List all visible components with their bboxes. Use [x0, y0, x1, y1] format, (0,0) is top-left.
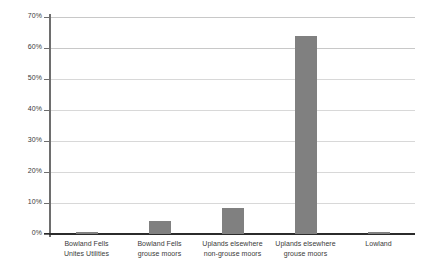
x-label-1-line2: grouse moors: [123, 249, 196, 259]
y-tick-label-20: 20%: [2, 167, 42, 174]
x-label-3-line2: grouse moors: [269, 249, 342, 259]
bar-bowland-fells-grouse-moors[interactable]: [149, 221, 171, 234]
bar-chart: 70% 60% 50% 40% 30% 20% 10% 0%: [0, 0, 430, 277]
y-tick-mark-20: [44, 172, 49, 173]
bar-slot-0: [50, 17, 123, 234]
y-tick-label-40: 40%: [2, 105, 42, 112]
x-label-0-line1: Bowland Fells: [64, 240, 108, 247]
y-tick-mark-60: [44, 48, 49, 49]
bar-slot-2: [196, 17, 269, 234]
y-tick-mark-0: [44, 234, 49, 235]
y-tick-mark-50: [44, 79, 49, 80]
y-tick-mark-10: [44, 203, 49, 204]
x-label-2-line1: Uplands elsewhere: [202, 240, 262, 247]
bar-bowland-fells-unites-utilities[interactable]: [76, 232, 98, 234]
x-label-2-line2: non-grouse moors: [196, 249, 269, 259]
bar-lowland[interactable]: [368, 232, 390, 234]
y-tick-label-70: 70%: [2, 12, 42, 19]
y-tick-mark-70: [44, 17, 49, 18]
bar-slot-4: [342, 17, 415, 234]
x-label-1: Bowland Fells grouse moors: [123, 239, 196, 259]
x-label-0: Bowland Fells Unites Utilities: [50, 239, 123, 259]
y-tick-mark-30: [44, 141, 49, 142]
x-axis-labels: Bowland Fells Unites Utilities Bowland F…: [50, 239, 415, 277]
x-label-1-line1: Bowland Fells: [137, 240, 181, 247]
y-tick-mark-40: [44, 110, 49, 111]
x-label-3: Uplands elsewhere grouse moors: [269, 239, 342, 259]
y-tick-label-0: 0%: [2, 229, 42, 236]
x-label-0-line2: Unites Utilities: [50, 249, 123, 259]
x-label-4-line1: Lowland: [365, 240, 391, 247]
x-label-2: Uplands elsewhere non-grouse moors: [196, 239, 269, 259]
bar-uplands-elsewhere-non-grouse-moors[interactable]: [222, 208, 244, 234]
bar-slot-3: [269, 17, 342, 234]
bar-slot-1: [123, 17, 196, 234]
y-tick-label-60: 60%: [2, 43, 42, 50]
x-label-3-line1: Uplands elsewhere: [275, 240, 335, 247]
bar-uplands-elsewhere-grouse-moors[interactable]: [295, 36, 317, 234]
bars-layer: [50, 17, 415, 234]
y-tick-label-10: 10%: [2, 198, 42, 205]
y-tick-label-50: 50%: [2, 74, 42, 81]
y-tick-label-30: 30%: [2, 136, 42, 143]
x-label-4: Lowland: [342, 239, 415, 249]
